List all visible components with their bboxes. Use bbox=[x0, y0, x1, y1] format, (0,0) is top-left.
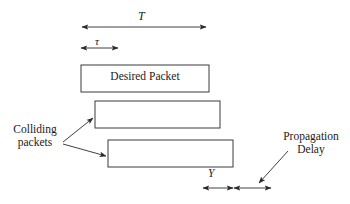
label-colliding-packets-line1: Colliding bbox=[8, 123, 62, 136]
label-colliding-packets: Colliding packets bbox=[8, 123, 62, 149]
label-offset-Y: Y bbox=[208, 167, 214, 180]
label-colliding-packets-line2: packets bbox=[8, 136, 62, 149]
colliding-packets-leader-upper bbox=[63, 118, 93, 142]
propagation-delay-leader bbox=[259, 151, 288, 183]
packet-collision-diagram: T τ Desired Packet Colliding packets Pro… bbox=[0, 0, 350, 204]
label-desired-packet: Desired Packet bbox=[81, 70, 209, 83]
label-propagation-delay-line2: Delay bbox=[278, 143, 344, 156]
colliding-packet-box-1 bbox=[95, 101, 220, 128]
label-propagation-delay-line1: Propagation bbox=[278, 130, 344, 143]
colliding-packets-leader-lower bbox=[63, 144, 106, 156]
label-tau: τ bbox=[95, 35, 99, 47]
colliding-packet-box-2 bbox=[108, 140, 233, 167]
label-total-time-T: T bbox=[138, 10, 145, 23]
diagram-canvas bbox=[0, 0, 350, 204]
label-propagation-delay: Propagation Delay bbox=[278, 130, 344, 156]
